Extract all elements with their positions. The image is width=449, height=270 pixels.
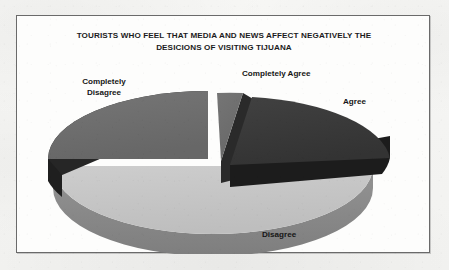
pie-label-completely-disagree-line-2: Disagree [67, 88, 141, 99]
pie-label-completely-disagree-line-1: Completely [67, 77, 141, 88]
pie-label-completely-disagree: Completely Disagree [67, 77, 141, 98]
pie-label-disagree: Disagree [262, 230, 296, 241]
pie-slice-agree[interactable] [230, 97, 390, 187]
pie-label-agree: Agree [343, 97, 366, 108]
chart-frame: TOURISTS WHO FEEL THAT MEDIA AND NEWS AF… [16, 15, 430, 253]
pie-slice-disagree[interactable] [53, 166, 373, 254]
pie-label-completely-agree: Completely Agree [242, 69, 311, 80]
pie-chart-graphic [17, 16, 431, 254]
